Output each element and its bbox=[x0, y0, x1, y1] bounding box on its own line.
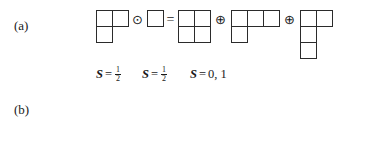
direct-sum-icon: ⊕ bbox=[210, 10, 231, 29]
spin-relation: = bbox=[151, 67, 158, 82]
young-diagram-a-term-3 bbox=[300, 10, 332, 58]
young-diagram-cell bbox=[147, 10, 164, 27]
spin-relation: = bbox=[199, 67, 206, 82]
young-diagram-a-term-1 bbox=[178, 10, 210, 42]
equals-sign: = bbox=[163, 10, 178, 29]
young-diagram-cell bbox=[178, 26, 195, 43]
young-diagram-cell bbox=[194, 26, 211, 43]
spin-symbol: S bbox=[142, 67, 149, 82]
young-diagram-cell bbox=[96, 10, 113, 27]
spin-symbol: S bbox=[190, 67, 197, 82]
young-diagram-cell bbox=[112, 10, 129, 27]
young-diagram-cell bbox=[231, 26, 248, 43]
spin-fraction: 1 2 bbox=[115, 66, 121, 83]
young-diagram-row bbox=[231, 10, 279, 26]
young-diagram-cell bbox=[316, 10, 333, 27]
spin-relation: = bbox=[105, 67, 112, 82]
equation-row-a: ⊙ = ⊕ ⊕ bbox=[96, 10, 332, 58]
spin-label: S = 1 2 bbox=[96, 66, 122, 83]
young-diagram-cell bbox=[96, 26, 113, 43]
spin-fraction: 1 2 bbox=[161, 66, 167, 83]
spin-symbol: S bbox=[96, 67, 103, 82]
young-diagram-row bbox=[178, 10, 210, 26]
spin-label: S = 0, 1 bbox=[190, 67, 227, 82]
young-diagram-row bbox=[300, 10, 332, 26]
young-diagram-cell bbox=[263, 10, 280, 27]
young-diagram-row bbox=[96, 26, 112, 42]
row-label-a: (a) bbox=[14, 18, 28, 34]
young-diagram-cell bbox=[300, 26, 317, 43]
young-diagram-a-factor-1 bbox=[96, 10, 128, 42]
young-diagram-cell bbox=[194, 10, 211, 27]
young-diagram-a-factor-2 bbox=[147, 10, 163, 26]
row-label-b: (b) bbox=[14, 102, 29, 118]
spin-labels-row-a: S = 1 2 S = 1 2 S = 0, 1 bbox=[96, 66, 227, 83]
young-diagram-cell bbox=[231, 10, 248, 27]
spin-value: 0, 1 bbox=[208, 67, 227, 82]
tensor-product-icon: ⊙ bbox=[128, 10, 147, 29]
young-diagram-cell bbox=[300, 10, 317, 27]
direct-sum-icon: ⊕ bbox=[279, 10, 300, 29]
young-diagram-row bbox=[231, 26, 247, 42]
figure-row-a: (a) ⊙ = ⊕ ⊕ S = 1 2 S = 1 2 bbox=[0, 0, 365, 88]
spin-label: S = 1 2 bbox=[142, 66, 168, 83]
figure-row-b: (b) ⊙ = ⊕ S = 3 2 S = 1 2 S = bbox=[0, 88, 365, 162]
young-diagram-cell bbox=[247, 10, 264, 27]
young-diagram-row bbox=[147, 10, 163, 26]
young-diagram-a-term-2 bbox=[231, 10, 279, 42]
young-diagram-row bbox=[178, 26, 210, 42]
young-diagram-cell bbox=[178, 10, 195, 27]
young-diagram-row bbox=[96, 10, 128, 26]
young-diagram-row bbox=[300, 26, 316, 42]
young-diagram-row bbox=[300, 42, 316, 58]
young-diagram-cell bbox=[300, 42, 317, 59]
